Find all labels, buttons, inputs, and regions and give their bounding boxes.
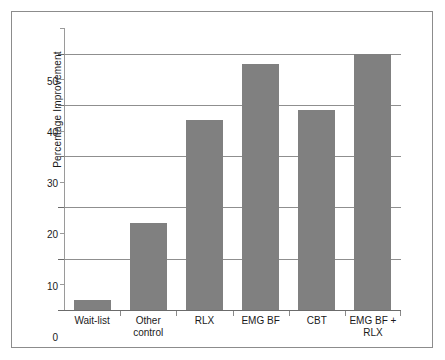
x-tick-label: Other control [120, 315, 176, 339]
y-tick-50 [58, 54, 64, 55]
y-axis-tick-labels: 01020304050 [30, 28, 58, 311]
y-minor-tick-55 [60, 28, 64, 29]
y-minor-tick-15 [60, 233, 64, 234]
y-tick-label-40: 40 [47, 128, 58, 138]
x-axis-tick-labels: Wait-listOther controlRLXEMG BFCBTEMG BF… [64, 315, 401, 355]
y-tick-20 [58, 207, 64, 208]
gridline-50 [64, 54, 401, 55]
gridline-10 [64, 259, 401, 260]
y-tick-10 [58, 259, 64, 260]
x-tick-label: EMG BF [233, 315, 289, 327]
y-tick-label-20: 20 [47, 230, 58, 240]
x-tick-label: RLX [176, 315, 232, 327]
y-tick-0 [58, 310, 64, 311]
bar [242, 64, 279, 310]
y-minor-tick-5 [60, 284, 64, 285]
x-tick-label: CBT [289, 315, 345, 327]
bar-chart: Percentage Improvement 01020304050 Wait-… [0, 0, 445, 360]
y-minor-tick-25 [60, 182, 64, 183]
bar [130, 223, 167, 310]
x-tick-label: Wait-list [64, 315, 120, 327]
y-tick-label-30: 30 [47, 179, 58, 189]
y-minor-tick-35 [60, 131, 64, 132]
y-tick-40 [58, 105, 64, 106]
y-tick-label-50: 50 [47, 77, 58, 87]
x-tick-label: EMG BF + RLX [345, 315, 401, 339]
gridline-40 [64, 105, 401, 106]
bar [186, 120, 223, 310]
y-tick-30 [58, 156, 64, 157]
y-tick-label-10: 10 [47, 282, 58, 292]
bar [354, 54, 391, 310]
gridline-30 [64, 156, 401, 157]
bar [298, 110, 335, 310]
y-tick-label-0: 0 [52, 333, 58, 343]
y-axis-line [64, 28, 65, 311]
bar [74, 300, 111, 310]
gridline-20 [64, 207, 401, 208]
plot-area [64, 28, 401, 311]
y-minor-tick-45 [60, 79, 64, 80]
